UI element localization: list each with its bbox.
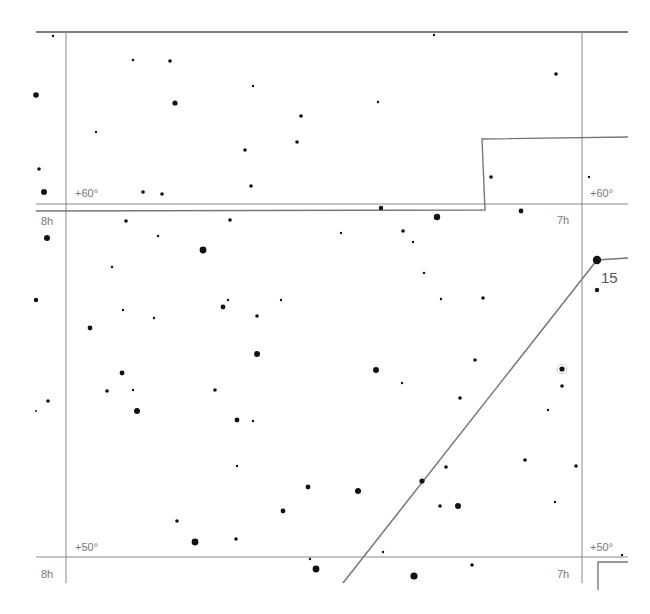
star-dot-icon <box>470 563 474 567</box>
star-dot-icon <box>554 72 558 76</box>
star-dot-icon <box>523 458 527 462</box>
dec-label-50-right: +50° <box>590 541 613 553</box>
star-dot-icon <box>458 396 462 400</box>
star-dot-icon <box>157 235 159 237</box>
star-dot-icon <box>547 409 549 411</box>
star-dot-icon <box>200 247 207 254</box>
star-dot-icon <box>280 299 282 301</box>
star-dot-icon <box>377 101 379 103</box>
star-dot-icon <box>593 256 601 264</box>
star-dot-icon <box>340 232 342 234</box>
star-dot-icon <box>168 59 172 63</box>
star-dot-icon <box>34 298 38 302</box>
star-dot-icon <box>401 382 403 384</box>
star-dot-icon <box>313 566 320 573</box>
star-dot-icon <box>621 554 623 556</box>
star-dot-icon <box>33 92 39 98</box>
star-dot-icon <box>309 558 311 560</box>
star-dot-icon <box>252 85 254 87</box>
dec-label-60-left: +60° <box>75 187 98 199</box>
star-dot-icon <box>95 131 97 133</box>
star-dot-icon <box>111 266 113 268</box>
star-dot-icon <box>560 384 564 388</box>
star-dot-icon <box>105 389 109 393</box>
ra-label-7h-top: 7h <box>557 214 569 226</box>
star-dot-icon <box>252 420 254 422</box>
star-dot-icon <box>559 366 564 371</box>
star-chart: +60° +60° 8h 7h +50° +50° 8h 7h 15 <box>0 0 650 614</box>
star-dot-icon <box>132 389 134 391</box>
star-dot-icon <box>455 503 461 509</box>
star-dot-icon <box>172 100 177 105</box>
star-dot-icon <box>52 35 54 37</box>
constellation-boundaries <box>36 137 628 590</box>
star-dot-icon <box>373 367 379 373</box>
star-dot-icon <box>382 551 384 553</box>
constellation-lines <box>343 258 628 583</box>
star-dot-icon <box>141 190 145 194</box>
star-dot-icon <box>355 488 361 494</box>
star-dot-icon <box>192 539 199 546</box>
star-dot-icon <box>401 229 405 233</box>
star-dot-icon <box>254 351 260 357</box>
star-dot-icon <box>46 399 50 403</box>
star-dot-icon <box>122 309 124 311</box>
star-dot-icon <box>175 519 179 523</box>
star-dot-icon <box>379 206 383 210</box>
star-dot-icon <box>438 504 442 508</box>
star-dot-icon <box>440 298 442 300</box>
star-dot-icon <box>554 501 556 503</box>
star-dot-icon <box>434 214 440 220</box>
boundary-line <box>36 137 628 211</box>
star-dot-icon <box>473 358 477 362</box>
star-dot-icon <box>236 465 238 467</box>
ra-label-8h-bottom: 8h <box>41 568 53 580</box>
boundary-line <box>598 562 628 590</box>
star-dot-icon <box>281 509 286 514</box>
star-dot-icon <box>249 184 253 188</box>
star-dot-icon <box>489 175 493 179</box>
star-dot-icon <box>412 241 414 243</box>
star-dot-icon <box>574 464 578 468</box>
star-dot-icon <box>299 114 303 118</box>
stars-layer <box>33 34 623 580</box>
star-dot-icon <box>423 272 425 274</box>
star-dot-icon <box>481 296 485 300</box>
star-dot-icon <box>255 314 259 318</box>
star-dot-icon <box>433 34 435 36</box>
star-dot-icon <box>519 209 524 214</box>
star-dot-icon <box>295 140 299 144</box>
ra-label-8h-top: 8h <box>41 215 53 227</box>
dec-label-50-left: +50° <box>75 541 98 553</box>
star-dot-icon <box>124 219 128 223</box>
star-dot-icon <box>306 485 311 490</box>
star-dot-icon <box>227 299 229 301</box>
star-dot-icon <box>41 189 47 195</box>
star-label-15: 15 <box>601 269 618 286</box>
star-dot-icon <box>88 326 93 331</box>
star-dot-icon <box>35 410 37 412</box>
star-dot-icon <box>235 418 240 423</box>
star-dot-icon <box>120 371 125 376</box>
star-dot-icon <box>228 218 232 222</box>
star-dot-icon <box>221 305 226 310</box>
star-dot-icon <box>410 572 417 579</box>
star-dot-icon <box>419 478 424 483</box>
coordinate-grid <box>36 32 628 583</box>
ra-label-7h-bottom: 7h <box>557 568 569 580</box>
star-dot-icon <box>134 408 140 414</box>
star-dot-icon <box>595 288 599 292</box>
dec-label-60-right: +60° <box>590 187 613 199</box>
star-dot-icon <box>234 537 238 541</box>
star-dot-icon <box>132 59 135 62</box>
star-dot-icon <box>243 148 247 152</box>
star-dot-icon <box>153 317 155 319</box>
star-dot-icon <box>37 167 41 171</box>
star-dot-icon <box>444 465 448 469</box>
constellation-line <box>343 258 628 583</box>
star-dot-icon <box>588 176 590 178</box>
star-dot-icon <box>44 235 50 241</box>
star-dot-icon <box>213 388 217 392</box>
star-dot-icon <box>160 192 164 196</box>
